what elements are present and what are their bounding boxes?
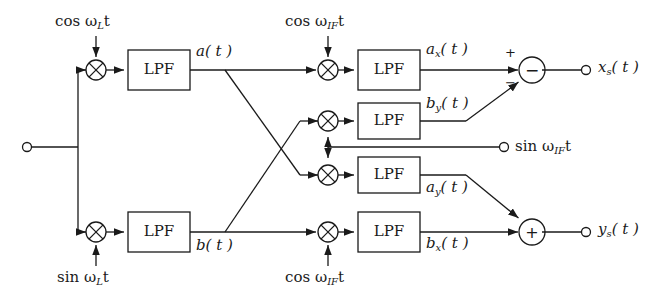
lpf-bx-label: LPF [358,224,420,239]
lpf-i-label: LPF [128,62,190,77]
output-ys-label: ys( t ) [598,222,639,239]
sum-minus-sign: − [505,76,516,89]
if-cos-bottom-label: cos ωIFt [285,270,344,287]
lo-sin-label: sin ωLt [57,270,109,287]
lpf-ax-label: LPF [358,62,420,77]
lo-cos-label: cos ωLt [55,14,110,31]
lpf-ay-label: LPF [358,167,420,182]
ys-output-terminal [582,228,591,237]
signal-a-label: a( t ) [196,44,232,59]
lpf-q-label: LPF [128,224,190,239]
sum-xs-glyph: − [525,60,539,80]
ay-sum-arrow [516,216,519,218]
b-crossover-diagonal [225,121,300,232]
xs-output-terminal [582,66,591,75]
if-sin-label: sin ωIFt [515,139,571,156]
sum-ys-glyph: + [525,223,538,242]
if-cos-top-label: cos ωIFt [285,14,344,31]
ay-to-sum-diagonal [466,175,516,216]
by-sum-arrow [516,82,519,84]
if-sin-terminal [500,143,509,152]
signal-bx-label: bx( t ) [426,236,469,253]
signal-ay-label: ay( t ) [426,180,468,197]
output-xs-label: xs( t ) [598,60,639,77]
rf-input-terminal [23,143,32,152]
lpf-by-label: LPF [358,113,420,128]
a-crossover-diagonal [225,70,300,175]
block-diagram-canvas: − + LPF LPF LPF LPF LPF LPF cos ωLt sin … [0,0,647,293]
signal-ax-label: ax( t ) [426,42,468,59]
signal-by-label: by( t ) [426,96,469,113]
sum-plus-sign: + [505,46,516,59]
signal-b-label: b( t ) [196,238,233,253]
